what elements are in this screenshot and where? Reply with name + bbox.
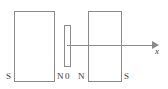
left-magnet-south-pole-label: S	[6, 72, 11, 81]
left-magnet-north-pole-label: N	[57, 72, 64, 81]
x-axis-label: x	[155, 47, 159, 56]
magnet-coil-diagram: S N 0 N S x	[0, 0, 168, 89]
right-magnet-south-pole-label: S	[124, 72, 129, 81]
right-magnet-north-pole-label: N	[78, 72, 85, 81]
right-bar-magnet	[88, 11, 122, 82]
axis-origin-label: 0	[65, 72, 70, 81]
left-bar-magnet	[14, 11, 55, 82]
x-axis-line	[67, 45, 155, 46]
center-coil	[64, 25, 71, 67]
